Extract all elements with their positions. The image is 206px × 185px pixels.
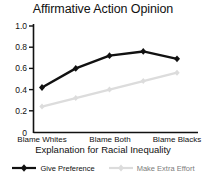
data-point xyxy=(107,87,112,93)
x-tick-label-blame-both: Blame Both xyxy=(89,135,130,144)
data-point xyxy=(107,52,113,59)
legend-label-make-extra-effort: Make Extra Effort xyxy=(137,164,195,173)
data-point xyxy=(141,78,146,84)
x-tick-label-blame-whites: Blame Whites xyxy=(17,135,66,144)
legend-swatch-give-preference xyxy=(11,163,37,173)
data-point xyxy=(39,104,44,110)
y-tick-label-1.0: 1.0 xyxy=(15,21,27,31)
y-tick-label-0.2: 0.2 xyxy=(15,106,27,116)
y-tick-label-0.8: 0.8 xyxy=(15,42,27,52)
legend-swatch-make-extra-effort xyxy=(108,163,134,173)
data-point xyxy=(140,48,146,55)
legend-entry-give-preference: Give Preference xyxy=(11,163,94,173)
x-axis-title: Explanation for Racial Inequality xyxy=(0,144,206,155)
data-point xyxy=(174,70,179,76)
plot-area: 1.0 0.8 0.6 0.4 0.2 0 Blame Whites Blame… xyxy=(0,0,206,185)
x-tick-label-blame-blacks: Blame Blacks xyxy=(153,135,201,144)
chart-figure: Affirmative Action Opinion 1.0 0.8 0.6 0… xyxy=(0,0,206,185)
y-axis-tick-labels: 1.0 0.8 0.6 0.4 0.2 0 xyxy=(15,21,27,138)
data-point xyxy=(73,95,78,101)
series-layer xyxy=(39,48,180,110)
x-axis-tick-labels: Blame Whites Blame Both Blame Blacks xyxy=(17,135,201,144)
legend-label-give-preference: Give Preference xyxy=(40,164,94,173)
y-tick-label-0.6: 0.6 xyxy=(15,63,27,73)
legend-entry-make-extra-effort: Make Extra Effort xyxy=(108,163,195,173)
data-point xyxy=(174,55,180,62)
y-tick-label-0.4: 0.4 xyxy=(15,85,27,95)
chart-legend: Give Preference Make Extra Effort xyxy=(0,163,206,173)
